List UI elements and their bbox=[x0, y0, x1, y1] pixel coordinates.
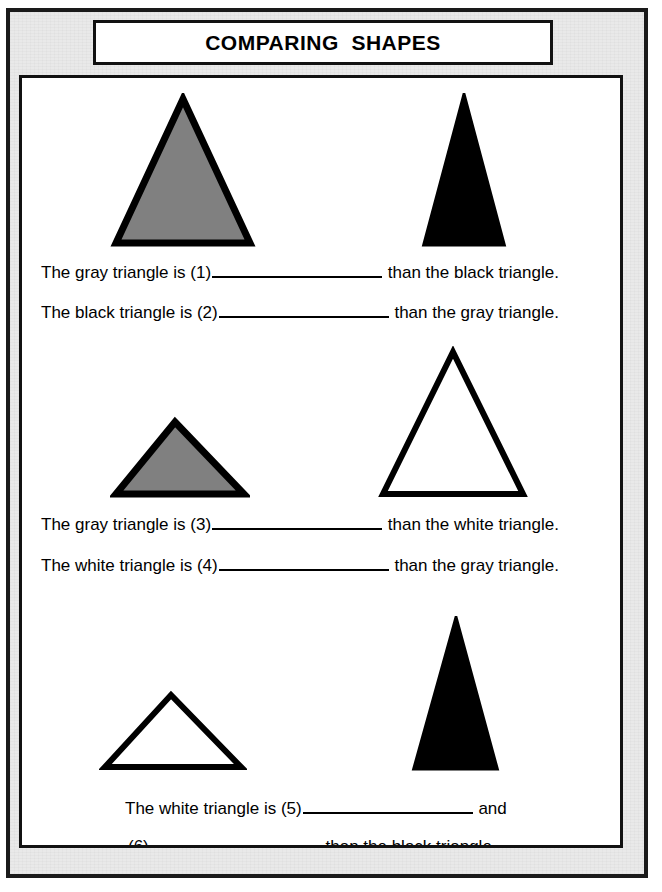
shape-black-triangle-narrow-tall bbox=[418, 93, 510, 249]
sentence-6: (6) than the black triangle. bbox=[128, 835, 497, 848]
sentence-5-suffix: and bbox=[474, 799, 507, 818]
answer-blank-4[interactable] bbox=[219, 554, 389, 571]
sentence-4: The white triangle is (4) than the gray … bbox=[41, 554, 559, 574]
sentence-6-prefix: (6) bbox=[128, 837, 149, 848]
sentence-6-suffix: than the black triangle. bbox=[321, 837, 497, 848]
sentence-2-prefix: The black triangle is (2) bbox=[41, 303, 218, 322]
sentence-4-prefix: The white triangle is (4) bbox=[41, 556, 218, 575]
answer-blank-6[interactable] bbox=[150, 835, 320, 848]
shape-white-triangle-large bbox=[377, 346, 529, 501]
page-title: COMPARING SHAPES bbox=[205, 31, 441, 55]
sentence-5: The white triangle is (5) and bbox=[125, 797, 507, 817]
shape-black-triangle-tall bbox=[408, 616, 504, 774]
answer-blank-1[interactable] bbox=[212, 261, 382, 278]
answer-blank-2[interactable] bbox=[219, 301, 389, 318]
sentence-1-prefix: The gray triangle is (1) bbox=[41, 263, 211, 282]
sentence-3-suffix: than the white triangle. bbox=[383, 515, 559, 534]
shape-gray-triangle-wide-short bbox=[110, 415, 250, 501]
shape-gray-triangle-large bbox=[110, 93, 256, 249]
sentence-4-suffix: than the gray triangle. bbox=[390, 556, 559, 575]
worksheet-content-box: The gray triangle is (1) than the black … bbox=[19, 75, 623, 848]
sentence-1-suffix: than the black triangle. bbox=[383, 263, 559, 282]
worksheet-page: COMPARING SHAPES The gray triangle is (1… bbox=[0, 0, 662, 892]
sentence-3: The gray triangle is (3) than the white … bbox=[41, 513, 559, 533]
answer-blank-3[interactable] bbox=[212, 513, 382, 530]
sentence-5-prefix: The white triangle is (5) bbox=[125, 799, 302, 818]
shape-white-triangle-wide-short bbox=[99, 688, 247, 774]
sentence-2-suffix: than the gray triangle. bbox=[390, 303, 559, 322]
answer-blank-5[interactable] bbox=[303, 797, 473, 814]
sentence-2: The black triangle is (2) than the gray … bbox=[41, 301, 559, 321]
sentence-3-prefix: The gray triangle is (3) bbox=[41, 515, 211, 534]
sentence-1: The gray triangle is (1) than the black … bbox=[41, 261, 559, 281]
title-box: COMPARING SHAPES bbox=[93, 20, 553, 65]
